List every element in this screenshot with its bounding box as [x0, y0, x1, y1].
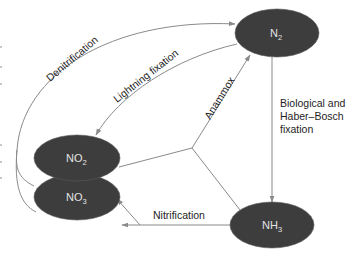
edge-biological-fixation: Biological and Haber–Bosch fixation [272, 57, 348, 202]
label-nitrification: Nitrification [153, 209, 205, 221]
label-biological-fixation: Biological and Haber–Bosch fixation [280, 97, 348, 135]
label-lightning-fixation: Lightning fixation [111, 47, 181, 105]
edge-lightning-fixation: Lightning fixation [96, 44, 237, 135]
label-denitrification: Denitrification [44, 33, 101, 83]
node-nh3: NH3 [230, 202, 314, 248]
edge-nitrification: Nitrification [117, 199, 230, 225]
node-n2: N2 [235, 9, 319, 57]
nitrogen-cycle-diagram: Denitrification Lightning fixation Anamm… [0, 0, 354, 258]
node-no2: NO2 [34, 135, 120, 181]
label-anammox: Anammox [202, 74, 238, 121]
left-edge-marks [0, 46, 2, 179]
